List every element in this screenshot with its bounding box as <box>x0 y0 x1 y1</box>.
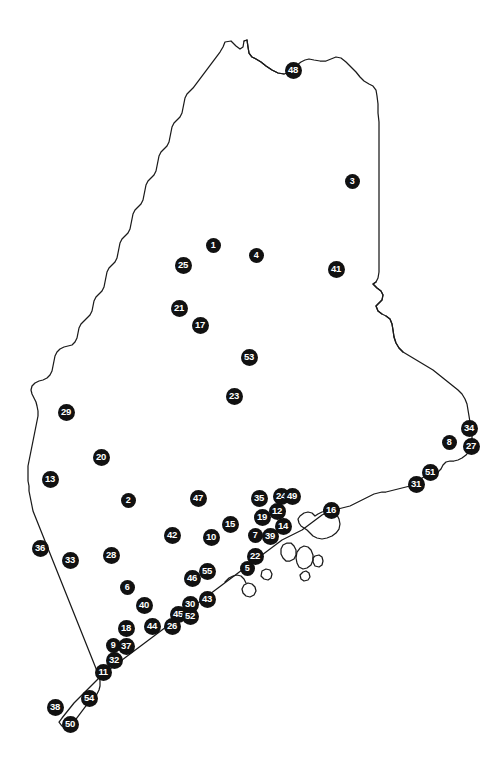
map-marker-28[interactable]: 28 <box>103 547 120 564</box>
map-marker-16[interactable]: 16 <box>323 502 340 519</box>
map-marker-48[interactable]: 48 <box>285 62 302 79</box>
map-marker-label: 52 <box>185 612 195 622</box>
map-marker-label: 4 <box>254 251 259 260</box>
map-marker-54[interactable]: 54 <box>81 690 98 707</box>
map-marker-label: 15 <box>225 520 235 530</box>
map-marker-label: 25 <box>178 261 188 271</box>
map-marker-label: 31 <box>411 480 421 490</box>
map-marker-label: 43 <box>202 595 212 605</box>
map-marker-32[interactable]: 32 <box>106 652 123 669</box>
map-marker-label: 48 <box>288 66 298 76</box>
map-marker-29[interactable]: 29 <box>58 404 75 421</box>
map-marker-label: 44 <box>147 622 157 632</box>
map-marker-22[interactable]: 22 <box>247 548 264 565</box>
map-marker-label: 33 <box>65 556 75 566</box>
map-marker-33[interactable]: 33 <box>62 552 79 569</box>
map-marker-label: 55 <box>202 567 212 577</box>
map-marker-label: 35 <box>254 494 264 504</box>
map-marker-label: 29 <box>61 408 71 418</box>
map-marker-label: 22 <box>250 552 260 562</box>
map-marker-label: 46 <box>187 574 197 584</box>
map-marker-label: 8 <box>447 438 452 447</box>
map-marker-4[interactable]: 4 <box>249 248 264 263</box>
map-marker-6[interactable]: 6 <box>120 580 135 595</box>
map-marker-label: 17 <box>195 321 205 331</box>
map-marker-2[interactable]: 2 <box>121 493 136 508</box>
map-marker-18[interactable]: 18 <box>118 620 135 637</box>
map-marker-31[interactable]: 31 <box>408 476 425 493</box>
map-marker-label: 14 <box>278 522 288 532</box>
map-marker-label: 49 <box>287 492 297 502</box>
map-marker-36[interactable]: 36 <box>32 540 49 557</box>
map-marker-23[interactable]: 23 <box>226 388 243 405</box>
map-marker-label: 50 <box>65 720 75 730</box>
map-marker-37[interactable]: 37 <box>118 638 135 655</box>
map-marker-46[interactable]: 46 <box>184 570 201 587</box>
map-marker-44[interactable]: 44 <box>144 618 161 635</box>
map-marker-39[interactable]: 39 <box>262 528 279 545</box>
map-marker-35[interactable]: 35 <box>251 490 268 507</box>
map-marker-label: 34 <box>464 424 474 434</box>
map-marker-21[interactable]: 21 <box>171 300 188 317</box>
location-map: 1234567891011121314151617181920212223242… <box>0 0 489 766</box>
map-marker-label: 18 <box>121 624 131 634</box>
map-marker-label: 40 <box>139 601 149 611</box>
map-marker-50[interactable]: 50 <box>62 716 79 733</box>
map-marker-label: 1 <box>211 241 216 250</box>
map-marker-15[interactable]: 15 <box>222 516 239 533</box>
marker-layer: 1234567891011121314151617181920212223242… <box>0 0 489 766</box>
map-marker-13[interactable]: 13 <box>42 471 59 488</box>
map-marker-label: 47 <box>193 494 203 504</box>
map-marker-34[interactable]: 34 <box>461 420 478 437</box>
map-marker-label: 19 <box>257 513 267 523</box>
map-marker-label: 41 <box>331 265 341 275</box>
map-marker-40[interactable]: 40 <box>136 597 153 614</box>
map-marker-41[interactable]: 41 <box>328 261 345 278</box>
map-marker-label: 42 <box>167 531 177 541</box>
map-marker-label: 39 <box>265 532 275 542</box>
map-marker-19[interactable]: 19 <box>254 509 271 526</box>
map-marker-label: 16 <box>326 506 336 516</box>
map-marker-label: 13 <box>45 475 55 485</box>
map-marker-label: 28 <box>106 551 116 561</box>
map-marker-10[interactable]: 10 <box>203 529 220 546</box>
map-marker-label: 53 <box>244 353 254 363</box>
map-marker-7[interactable]: 7 <box>248 528 263 543</box>
map-marker-label: 5 <box>245 564 250 573</box>
map-marker-12[interactable]: 12 <box>269 503 286 520</box>
map-marker-label: 23 <box>229 392 239 402</box>
map-marker-27[interactable]: 27 <box>463 438 480 455</box>
map-marker-51[interactable]: 51 <box>422 464 439 481</box>
map-marker-17[interactable]: 17 <box>192 317 209 334</box>
map-marker-3[interactable]: 3 <box>345 174 360 189</box>
map-marker-label: 3 <box>350 177 355 186</box>
map-marker-label: 12 <box>272 507 282 517</box>
map-marker-47[interactable]: 47 <box>190 490 207 507</box>
map-marker-label: 7 <box>253 531 258 540</box>
map-marker-25[interactable]: 25 <box>175 257 192 274</box>
map-marker-label: 32 <box>109 656 119 666</box>
map-marker-label: 51 <box>425 468 435 478</box>
map-marker-label: 11 <box>98 668 107 678</box>
map-marker-43[interactable]: 43 <box>199 591 216 608</box>
map-marker-20[interactable]: 20 <box>93 449 110 466</box>
map-marker-label: 21 <box>174 304 184 314</box>
map-marker-53[interactable]: 53 <box>241 349 258 366</box>
map-marker-label: 38 <box>50 703 60 713</box>
map-marker-38[interactable]: 38 <box>47 699 64 716</box>
map-marker-52[interactable]: 52 <box>182 608 199 625</box>
map-marker-label: 26 <box>167 622 177 632</box>
map-marker-1[interactable]: 1 <box>206 238 221 253</box>
map-marker-49[interactable]: 49 <box>284 488 301 505</box>
map-marker-label: 2 <box>126 496 131 505</box>
map-marker-label: 27 <box>466 442 476 452</box>
map-marker-label: 9 <box>111 641 116 650</box>
map-marker-42[interactable]: 42 <box>164 527 181 544</box>
map-marker-label: 20 <box>96 453 106 463</box>
map-marker-label: 54 <box>84 694 94 704</box>
map-marker-55[interactable]: 55 <box>199 563 216 580</box>
map-marker-label: 36 <box>35 544 45 554</box>
map-marker-8[interactable]: 8 <box>442 435 457 450</box>
map-marker-label: 37 <box>121 642 131 652</box>
map-marker-label: 6 <box>125 583 130 592</box>
